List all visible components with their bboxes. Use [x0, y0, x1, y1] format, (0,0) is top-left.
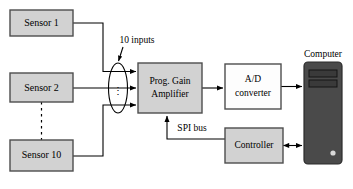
sensor-10-box[interactable]: Sensor 10: [10, 140, 73, 171]
sensor-2-label: Sensor 2: [24, 82, 59, 93]
sensor-1-box[interactable]: Sensor 1: [10, 10, 73, 36]
controller-label: Controller: [234, 140, 274, 150]
sensor-2-box[interactable]: Sensor 2: [10, 73, 73, 102]
spi-bus-label: SPI bus: [177, 123, 207, 133]
ad-converter-box[interactable]: A/D converter: [225, 64, 281, 109]
connection-sensor-10-to-bus: [73, 105, 136, 156]
inputs-pointer-arrow: [119, 47, 124, 61]
diagram-canvas: ⋮ Sensor 1 Sensor 2 Sensor 10 Prog. Gain…: [0, 0, 353, 189]
bus-ellipsis-dots: ⋮: [113, 85, 123, 96]
ad-converter-label-line2: converter: [235, 88, 272, 98]
sensor-1-label: Sensor 1: [24, 17, 59, 28]
ad-converter-label-line1: A/D: [245, 74, 262, 84]
computer-label: Computer: [304, 49, 343, 59]
sensor-10-label: Sensor 10: [22, 149, 62, 160]
inputs-label: 10 inputs: [119, 35, 154, 45]
amplifier-box[interactable]: Prog. Gain Amplifier: [138, 63, 202, 113]
amplifier-label-line1: Prog. Gain: [149, 76, 190, 86]
block-diagram: ⋮ Sensor 1 Sensor 2 Sensor 10 Prog. Gain…: [0, 0, 353, 189]
amplifier-label-line2: Amplifier: [151, 89, 189, 99]
computer-tower[interactable]: [304, 62, 342, 164]
controller-box[interactable]: Controller: [225, 128, 283, 163]
connection-sensor-1-to-bus: [73, 23, 136, 72]
